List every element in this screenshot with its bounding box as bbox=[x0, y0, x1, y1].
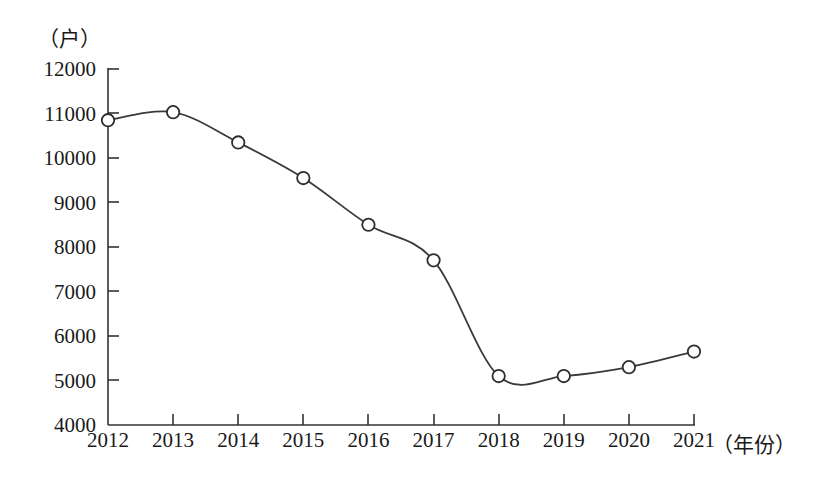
x-axis-tick-label: 2016 bbox=[347, 428, 389, 453]
chart-plot-area bbox=[0, 0, 828, 481]
y-axis-tick-label: 10000 bbox=[18, 146, 96, 171]
y-axis-tick-label: 6000 bbox=[18, 324, 96, 349]
data-point-marker bbox=[492, 370, 504, 382]
data-point-marker bbox=[232, 136, 244, 148]
y-axis-tick-label: 4000 bbox=[18, 413, 96, 438]
y-axis-tick-label: 7000 bbox=[18, 279, 96, 304]
data-series-group bbox=[102, 106, 700, 385]
line-chart: （户） bbox=[0, 0, 828, 481]
x-axis-tick-label: 2020 bbox=[608, 428, 650, 453]
data-point-marker bbox=[102, 114, 114, 126]
data-point-marker bbox=[558, 370, 570, 382]
data-point-marker bbox=[297, 172, 309, 184]
x-axis-tick-label: 2018 bbox=[478, 428, 520, 453]
x-axis-tick-label: 2019 bbox=[543, 428, 585, 453]
data-point-marker bbox=[362, 219, 374, 231]
data-point-marker bbox=[623, 361, 635, 373]
series-markers bbox=[102, 106, 700, 382]
y-axis-tick-label: 11000 bbox=[18, 101, 96, 126]
y-axis-tick-label: 5000 bbox=[18, 368, 96, 393]
x-axis-tick-label: 2017 bbox=[413, 428, 455, 453]
data-point-marker bbox=[427, 254, 439, 266]
data-point-marker bbox=[688, 345, 700, 357]
x-axis-ticks bbox=[173, 414, 694, 425]
data-point-marker bbox=[167, 106, 179, 118]
y-axis-tick-label: 9000 bbox=[18, 190, 96, 215]
x-axis-tick-label: 2012 bbox=[87, 428, 129, 453]
x-axis-tick-label: 2014 bbox=[217, 428, 259, 453]
y-axis-tick-label: 12000 bbox=[18, 57, 96, 82]
x-axis-unit-label: （年份） bbox=[712, 428, 796, 458]
series-line-households bbox=[108, 111, 694, 385]
x-axis-tick-label: 2021 bbox=[673, 428, 715, 453]
x-axis-tick-label: 2013 bbox=[152, 428, 194, 453]
x-axis-tick-label: 2015 bbox=[282, 428, 324, 453]
y-axis-tick-label: 8000 bbox=[18, 235, 96, 260]
